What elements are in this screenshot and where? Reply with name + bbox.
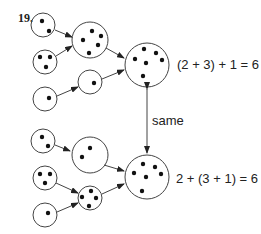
arrow	[104, 165, 124, 171]
bottom-equation: 2 + (3 + 1) = 6	[176, 171, 258, 186]
bottom-group	[31, 129, 169, 227]
arrow	[55, 30, 72, 37]
arrow	[102, 70, 124, 79]
arrow	[56, 46, 72, 56]
result-circle-top	[125, 43, 169, 87]
arrow	[57, 203, 78, 212]
set-circle-2	[31, 13, 55, 37]
same-label: same	[152, 113, 184, 128]
arrow	[57, 87, 78, 96]
set-circle-1	[33, 203, 57, 227]
set-circle-3	[33, 166, 57, 190]
set-circle-1-mid	[78, 70, 102, 94]
top-group	[31, 13, 169, 111]
set-circle-2-mid	[72, 137, 108, 173]
arrow	[106, 48, 124, 58]
set-circle-2	[31, 129, 55, 153]
top-equation: (2 + 3) + 1 = 6	[177, 57, 259, 72]
set-circle-3	[33, 50, 57, 74]
arrow	[102, 184, 124, 194]
set-circle-1	[33, 87, 57, 111]
associativity-diagram: 19. (2 + 3) + 1 = 6 same	[0, 0, 261, 234]
arrow	[56, 183, 78, 193]
arrow	[55, 145, 70, 151]
